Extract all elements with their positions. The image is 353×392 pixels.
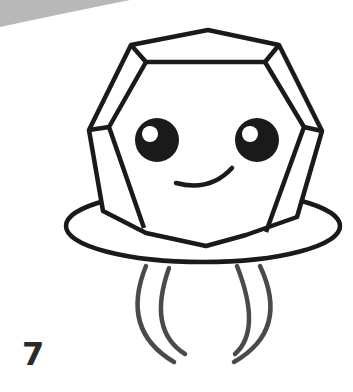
gem (89, 30, 322, 246)
ring-band (138, 266, 271, 362)
ring-drawing (0, 0, 353, 392)
left-eye (135, 118, 179, 162)
step-number: 7 (22, 338, 44, 370)
right-eye (235, 118, 279, 162)
page-curl-shadow (0, 0, 130, 27)
tutorial-step-canvas: 7 (0, 0, 353, 392)
